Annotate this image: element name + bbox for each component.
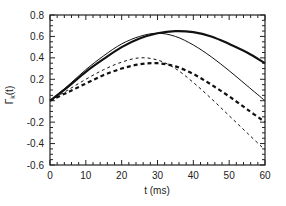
y-tick-label: 0 (38, 95, 44, 106)
x-tick-label: 20 (116, 170, 128, 181)
x-tick-label: 60 (259, 170, 271, 181)
x-tick-label: 0 (47, 170, 53, 181)
y-tick-labels: 0.80.60.40.20-0.2-0.4-0.6 (27, 10, 45, 171)
x-tick-label: 10 (80, 170, 92, 181)
axis-ticks (50, 15, 265, 165)
series-line (50, 33, 265, 101)
x-tick-label: 40 (188, 170, 200, 181)
chart: 0102030405060 0.80.60.40.20-0.2-0.4-0.6 … (0, 0, 286, 206)
x-axis-label: t (ms) (144, 185, 170, 196)
y-tick-label: 0.8 (30, 10, 44, 21)
series-line (50, 63, 265, 122)
x-tick-labels: 0102030405060 (47, 170, 271, 181)
y-tick-label: -0.4 (27, 138, 45, 149)
y-tick-label: -0.2 (27, 117, 45, 128)
y-tick-label: 0.4 (30, 52, 44, 63)
y-tick-label: 0.6 (30, 31, 44, 42)
x-tick-label: 50 (224, 170, 236, 181)
y-tick-label: 0.2 (30, 74, 44, 85)
y-axis-label: Γk(t) (4, 86, 16, 104)
plot-frame (50, 15, 265, 165)
series-line (50, 58, 265, 150)
y-tick-label: -0.6 (27, 160, 45, 171)
x-tick-label: 30 (152, 170, 164, 181)
series-line (50, 31, 265, 101)
svg-text:Γk(t): Γk(t) (4, 86, 16, 104)
data-series (50, 31, 265, 150)
